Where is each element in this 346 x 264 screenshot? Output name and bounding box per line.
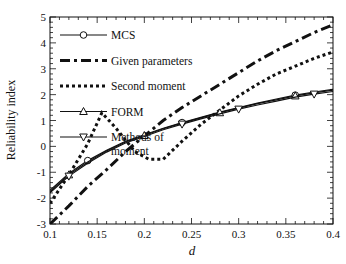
y-tick-label: -2 — [37, 192, 46, 204]
y-tick-label: -1 — [37, 166, 46, 178]
y-tick-label: 4 — [41, 37, 47, 49]
legend: MCSGiven parametersSecond momentFORMMeth… — [60, 29, 193, 157]
x-axis-label: d — [189, 243, 196, 258]
x-tick-label: 0.35 — [276, 228, 296, 240]
y-tick-label: -3 — [37, 218, 47, 230]
legend-label: Given parameters — [111, 55, 193, 68]
y-tick-label: 1 — [41, 115, 47, 127]
series-line-second-moment — [50, 52, 333, 203]
y-tick-label: 2 — [41, 89, 47, 101]
legend-label: moment — [111, 145, 149, 157]
y-axis-label: Reliability index — [4, 80, 18, 160]
x-tick-label: 0.3 — [232, 228, 246, 240]
legend-marker-mcs — [80, 32, 87, 39]
y-tick-label: 0 — [41, 140, 47, 152]
legend-label: Second moment — [111, 80, 186, 92]
y-tick-label: 3 — [41, 63, 47, 75]
series-line-methods-of-moment — [50, 92, 333, 193]
x-tick-label: 0.4 — [326, 228, 340, 240]
legend-label: FORM — [111, 106, 144, 118]
y-tick-label: 5 — [41, 11, 47, 23]
series-line-form — [50, 90, 333, 192]
series-line-mcs — [50, 89, 333, 190]
legend-label: MCS — [111, 29, 135, 41]
reliability-chart: 0.10.150.20.250.30.350.4-3-2-1012345 MCS… — [0, 0, 346, 264]
x-tick-label: 0.2 — [137, 228, 151, 240]
x-tick-label: 0.15 — [88, 228, 108, 240]
axes: 0.10.150.20.250.30.350.4-3-2-1012345 — [37, 11, 341, 240]
legend-label: Methods of — [111, 131, 164, 143]
x-tick-label: 0.25 — [182, 228, 202, 240]
